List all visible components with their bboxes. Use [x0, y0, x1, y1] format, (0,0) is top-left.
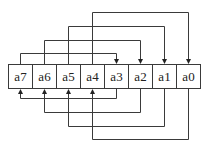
arrow-up-icon: [18, 89, 23, 94]
cell-label: a1: [158, 69, 170, 84]
arrow-down-icon: [138, 59, 143, 64]
cell-label: a4: [86, 69, 99, 84]
cell-a1: a1: [153, 65, 177, 89]
cell-label: a2: [134, 69, 146, 84]
cell-label: a5: [62, 69, 74, 84]
cell-a0: a0: [177, 65, 201, 89]
cell-label: a0: [182, 69, 194, 84]
cell-a5: a5: [57, 65, 81, 89]
arrow-down-icon: [114, 59, 119, 64]
cell-label: a6: [38, 69, 51, 84]
cell-a6: a6: [33, 65, 57, 89]
cell-label: a7: [14, 69, 27, 84]
arrow-up-icon: [66, 89, 71, 94]
top-connections: [21, 13, 192, 65]
bottom-connections: [18, 89, 189, 140]
cell-a2: a2: [129, 65, 153, 89]
cell-a4: a4: [81, 65, 105, 89]
arrow-down-icon: [162, 59, 167, 64]
arrow-down-icon: [186, 59, 191, 64]
arrow-up-icon: [90, 89, 95, 94]
cell-a7: a7: [9, 65, 33, 89]
register: a7 a6 a5 a4 a3 a2 a1 a0: [9, 65, 201, 89]
arrow-up-icon: [42, 89, 47, 94]
swap-diagram: a7 a6 a5 a4 a3 a2 a1 a0: [0, 0, 204, 142]
cell-label: a3: [110, 69, 122, 84]
cell-a3: a3: [105, 65, 129, 89]
